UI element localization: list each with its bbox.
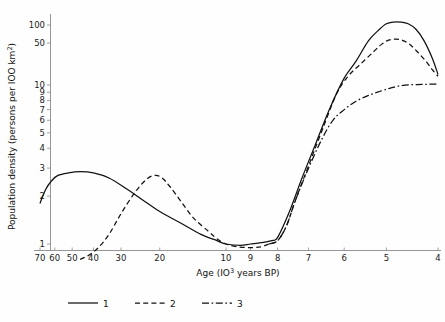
y-tick-label: 10 (34, 80, 45, 90)
x-tick-label: 6 (341, 253, 346, 263)
y-tick-label: 5 (40, 128, 45, 138)
legend: 123 (68, 299, 243, 309)
legend-label-1: 1 (103, 299, 109, 309)
x-tick-label: 60 (49, 253, 60, 263)
y-tick-label: 6 (40, 115, 45, 125)
x-tick-label: 10 (221, 253, 232, 263)
y-axis-ticks (47, 25, 51, 244)
y-axis-title: Population density (persons per IOO km2) (6, 43, 18, 230)
chart-svg: 1234567891050100 70605040302010987654 Po… (0, 0, 445, 322)
x-tick-label: 4 (435, 253, 440, 263)
series-line-1 (40, 22, 438, 246)
legend-label-2: 2 (170, 299, 176, 309)
y-tick-label: 100 (29, 20, 45, 30)
x-tick-label: 5 (384, 253, 389, 263)
figure-container: 1234567891050100 70605040302010987654 Po… (0, 0, 445, 322)
x-axis-tick-labels: 70605040302010987654 (35, 253, 441, 263)
x-tick-label: 50 (67, 253, 78, 263)
legend-label-3: 3 (237, 299, 243, 309)
x-tick-label: 7 (306, 253, 311, 263)
x-tick-label: 30 (116, 253, 127, 263)
x-tick-label: 20 (154, 253, 165, 263)
y-tick-label: 7 (40, 105, 45, 115)
series-line-3 (269, 84, 438, 244)
x-axis-title: Age (IO3 years BP) (196, 267, 279, 279)
y-axis-tick-labels: 1234567891050100 (29, 20, 45, 249)
x-tick-label: 8 (275, 253, 280, 263)
y-tick-label: 3 (40, 163, 45, 173)
y-tick-label: 50 (34, 38, 45, 48)
series-line-2 (80, 39, 438, 259)
x-tick-label: 70 (35, 253, 46, 263)
y-tick-label: 4 (40, 143, 45, 153)
x-tick-label: 9 (248, 253, 253, 263)
